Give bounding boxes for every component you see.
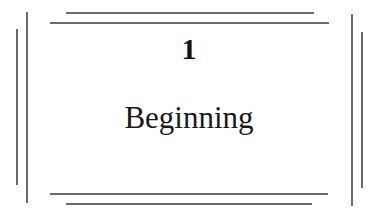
bottom-rule-outer (50, 193, 328, 195)
top-rule-outer (50, 22, 329, 24)
chapter-title: Beginning (0, 100, 378, 136)
chapter-number: 1 (0, 34, 378, 64)
bottom-rule-inner (66, 203, 312, 205)
top-rule-inner (66, 12, 314, 14)
